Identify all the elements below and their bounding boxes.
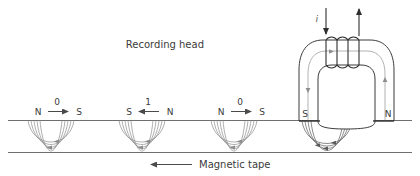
head-pole-label-right: N: [385, 109, 392, 119]
segment-2-bit-label: 1: [145, 97, 151, 107]
head-core-opening: [318, 65, 375, 129]
tape-segment-2: S N 1: [119, 97, 173, 151]
segment-3-bit-label: 0: [237, 97, 243, 107]
current-label: i: [316, 15, 319, 24]
magnetic-recording-diagram: N S 0 S N 1: [0, 0, 420, 176]
segment-1-left-pole: N: [35, 107, 42, 117]
tape-segment-1: N S 0: [28, 97, 82, 151]
segment-3-right-pole: S: [259, 107, 265, 117]
magnetic-tape-label: Magnetic tape: [199, 159, 271, 170]
tape-segment-3: N S 0: [211, 97, 265, 151]
flux-arcs-segment-2: [119, 121, 165, 152]
segment-1-bit-label: 0: [54, 97, 60, 107]
recording-head-label: Recording head: [126, 39, 204, 50]
segment-2-right-pole: N: [167, 107, 174, 117]
segment-3-left-pole: N: [218, 107, 225, 117]
segment-1-right-pole: S: [76, 107, 82, 117]
segment-2-left-pole: S: [126, 107, 132, 117]
flux-arcs-segment-3: [211, 121, 257, 152]
flux-arcs-segment-1: [28, 121, 74, 152]
figure-canvas: N S 0 S N 1: [0, 0, 420, 176]
head-pole-label-left: S: [302, 109, 308, 119]
recording-head: S N i: [299, 8, 394, 129]
